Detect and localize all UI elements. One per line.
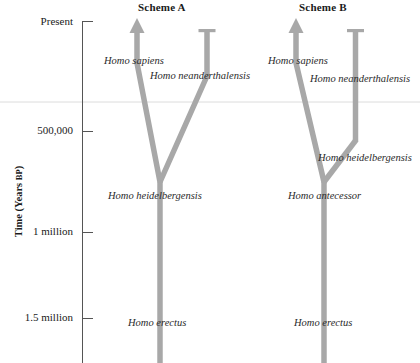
taxon-label-a-heidelbergensis: Homo heidelbergensis — [108, 190, 202, 201]
axis-label-1-million: 1 million — [0, 225, 73, 237]
tree-graphic — [0, 0, 420, 363]
arrow-a-sapiens-icon — [130, 18, 145, 33]
taxon-label-a-neanderthalensis: Homo neanderthalensis — [150, 70, 250, 81]
axis-label-present: Present — [0, 15, 73, 27]
branch-a-sapiens — [137, 28, 160, 182]
taxon-label-b-neanderthalensis: Homo neanderthalensis — [310, 73, 410, 84]
arrow-b-sapiens-icon — [289, 18, 304, 33]
axis-label-1-5-million: 1.5 million — [0, 311, 73, 323]
scheme-b-title: Scheme B — [299, 1, 347, 13]
extinction-bar-a-neanderthalensis-icon — [199, 29, 216, 32]
axis-title-smallcaps: BP — [14, 169, 24, 180]
taxon-label-a-erectus: Homo erectus — [128, 317, 186, 328]
axis-label-500000: 500,000 — [0, 124, 73, 136]
branch-a-neanderthalensis — [160, 31, 207, 182]
taxon-label-a-sapiens: Homo sapiens — [104, 55, 164, 66]
extinction-bar-b-neanderthalensis-icon — [347, 29, 364, 32]
taxon-label-b-erectus: Homo erectus — [294, 317, 352, 328]
taxon-label-b-sapiens: Homo sapiens — [268, 55, 328, 66]
scheme-a-title: Scheme A — [138, 1, 186, 13]
axis-title: Time (Years BP) — [13, 142, 24, 262]
axis-title-main: Time (Years — [13, 180, 24, 237]
taxon-label-b-heidelbergensis: Homo heidelbergensis — [318, 152, 412, 163]
axis-title-close: ) — [13, 166, 24, 170]
phylogeny-figure: Scheme A Scheme B Present 500,000 1 mill… — [0, 0, 420, 363]
taxon-label-b-antecessor: Homo antecessor — [288, 190, 361, 201]
